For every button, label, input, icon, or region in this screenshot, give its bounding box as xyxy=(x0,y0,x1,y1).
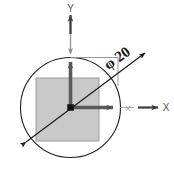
y-axis-label: Y xyxy=(67,3,74,14)
diameter-callout-group: φ 20 xyxy=(101,43,133,72)
x-axis-label: X xyxy=(163,102,170,113)
cad-drawing-svg: Y X X φ 20 xyxy=(0,0,174,171)
technical-drawing-canvas: Y X X φ 20 xyxy=(0,0,174,171)
x-axis-label-near: X xyxy=(125,104,131,113)
diameter-callout-text: φ 20 xyxy=(101,43,133,72)
origin-marker xyxy=(67,104,74,111)
